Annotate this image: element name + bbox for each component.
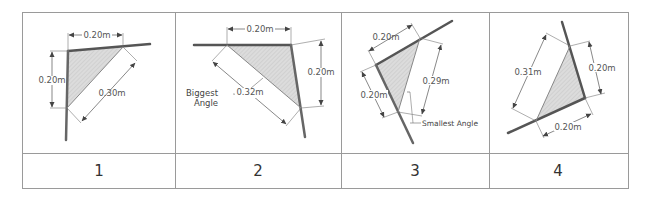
table-grid [22, 12, 629, 189]
panel-3-dim-right: 0.29m [422, 76, 449, 86]
triangle-diagram-table: 0.20m 0.20m 0.30m 1 0.20m 0.20m 0.32m Bi… [0, 0, 651, 198]
panel-1-dim-left: 0.20m [38, 75, 65, 85]
panel-4-dim-left: 0.31m [514, 67, 541, 77]
panel-2-annotation-line1: Biggest [186, 88, 219, 98]
panel-3-dim-left: 0.20m [360, 90, 387, 100]
panel-4-number: 4 [553, 162, 563, 180]
panel-3-annotation: Smallest Angle [422, 119, 478, 128]
panel-2-dim-top: 0.20m [246, 24, 273, 34]
panel-1-figure: 0.20m 0.20m 0.30m [38, 30, 150, 140]
panel-2-dim-right: 0.20m [307, 67, 334, 77]
panel-2-figure: 0.20m 0.20m 0.32m Biggest Angle [186, 24, 335, 137]
panel-3-figure: 0.20m 0.29m 0.20m Smallest Angle [360, 21, 478, 143]
panel-4-figure: 0.31m 0.20m 0.20m [508, 22, 616, 138]
panel-1-number: 1 [94, 162, 104, 180]
panel-2-dim-hypotenuse: 0.32m [236, 87, 263, 97]
panel-3-number: 3 [410, 162, 420, 180]
panel-2-number: 2 [253, 162, 263, 180]
panel-2-annotation-line2: Angle [194, 98, 218, 108]
panel-1-dim-top: 0.20m [83, 30, 110, 40]
panel-4-dim-bottom: 0.20m [554, 122, 581, 132]
panel-1-dim-hypotenuse: 0.30m [98, 88, 125, 98]
panel-4-dim-right: 0.20m [588, 63, 615, 73]
panel-3-dim-top: 0.20m [372, 32, 399, 42]
